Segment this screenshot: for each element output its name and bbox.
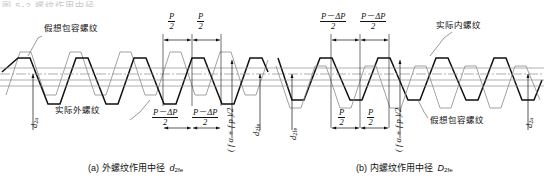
panel-a-caption-text: 外螺纹作用中径: [102, 163, 165, 173]
panel-b-actual-thread: [278, 58, 542, 100]
panel-b-dim-bottom-left: P 2: [338, 108, 345, 127]
panel-a-label-d2a-sym: d: [29, 124, 39, 128]
figure-canvas: 图 5-2 螺纹作用中径: [0, 0, 544, 187]
panel-a-label-d2a-sub: 2a: [32, 118, 39, 124]
panel-a-envelope-thread-label: 假想包容螺纹: [44, 24, 98, 33]
panel-b-envelope-thread-label: 假想包容螺纹: [430, 116, 484, 125]
panel-a-envelope-leader: [28, 36, 42, 56]
panel-b-dim-top-left: P－ΔP 2: [320, 12, 346, 31]
panel-a-dim-top-right: P 2: [197, 12, 204, 31]
panel-b-label-d2fe-sym: d: [288, 136, 298, 140]
panel-b-label-fafp: ( f α + f p )/2: [394, 108, 403, 152]
panel-a-label-fafp: ( f α + f p )/2: [226, 108, 235, 152]
panel-a-dim-bottom-left-den: 2: [152, 118, 178, 127]
panel-b-dim-top-right-den: 2: [360, 22, 386, 31]
panel-b-dim-top-right: P－ΔP 2: [360, 12, 386, 31]
panel-b-label-d2fe: d2fe: [289, 128, 298, 140]
panel-a-caption: (a) 外螺纹作用中径 d2fe: [88, 161, 183, 174]
panel-a-top-dim-extensions: [163, 34, 221, 106]
panel-a-label-d2fe: d2fe: [252, 124, 261, 136]
panel-b-label-d2a-sym: d: [524, 124, 534, 128]
panel-b-dim-bottom-left-den: 2: [338, 118, 345, 127]
panel-b-caption-prefix: (b): [356, 163, 367, 173]
panel-a-dim-top-right-den: 2: [197, 22, 204, 31]
panel-b-envelope-thread: [276, 66, 540, 108]
panel-a-caption-prefix: (a): [88, 163, 99, 173]
panel-b-caption-text: 内螺纹作用中径: [370, 163, 433, 173]
panel-a-dim-bottom-right: P－ΔP 2: [192, 108, 218, 127]
panel-a-dim-top-left-den: 2: [168, 22, 175, 31]
panel-b-dim-bottom-right: P 2: [367, 108, 374, 127]
panel-a-dim-bottom-left: P－ΔP 2: [152, 108, 178, 127]
panel-b-actual-leader: [430, 32, 452, 56]
panel-b-dim-top-left-den: 2: [320, 22, 346, 31]
panel-a-actual-thread-label: 实际外螺纹: [55, 106, 100, 115]
panel-b-dim-bottom-right-den: 2: [367, 118, 374, 127]
panel-a-dim-top-left: P 2: [168, 12, 175, 31]
panel-a-actual-leader: [130, 100, 150, 120]
panel-a-label-d2a: d2a: [30, 118, 39, 128]
panel-b-envelope-leader: [418, 100, 428, 118]
panel-b-caption: (b) 内螺纹作用中径 D2fe: [356, 161, 453, 174]
panel-b-caption-symbol-sub: 2fe: [444, 166, 453, 173]
panel-b-label-d2a: d2a: [525, 118, 534, 128]
panel-b-actual-thread-label: 实际内螺纹: [436, 21, 481, 30]
panel-b-graphics: [272, 32, 544, 138]
panel-a-label-d2fe-sub: 2fe: [254, 124, 261, 132]
panel-a-label-d2fe-sym: d: [251, 132, 261, 136]
panel-b-label-d2fe-sub: 2fe: [291, 128, 298, 136]
panel-a-dim-bottom-right-den: 2: [192, 118, 218, 127]
panel-b-label-d2a-sub: 2a: [527, 118, 534, 124]
panel-a-caption-symbol-sub: 2fe: [175, 166, 184, 173]
